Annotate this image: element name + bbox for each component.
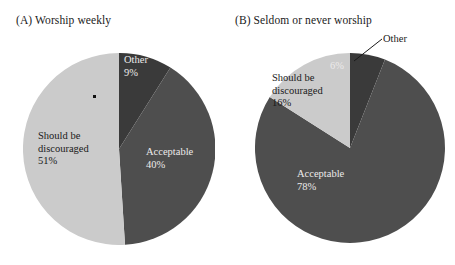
panel-b-label-discouraged-line1: Should be bbox=[272, 72, 314, 83]
panel-a-center-dot bbox=[93, 95, 96, 98]
panel-b-title: (B) Seldom or never worship bbox=[235, 14, 372, 26]
panel-a-label-discouraged-pct: 51% bbox=[38, 155, 89, 168]
panel-b-label-discouraged: Should be discouraged 16% bbox=[272, 72, 323, 110]
panel-a-worship-weekly: (A) Worship weekly bbox=[0, 0, 228, 265]
panel-b-label-discouraged-line2: discouraged bbox=[272, 85, 323, 98]
panel-a-label-other-name: Other bbox=[124, 54, 148, 65]
panel-a-label-discouraged: Should be discouraged 51% bbox=[38, 130, 89, 168]
pie-chart-figure: (A) Worship weekly Other 9% Acceptable 4… bbox=[0, 0, 455, 265]
panel-b-label-acceptable: Acceptable 78% bbox=[297, 168, 344, 193]
panel-b-label-acceptable-pct: 78% bbox=[297, 181, 344, 194]
panel-b-seldom-or-never-worship: (B) Seldom or never worship bbox=[228, 0, 455, 265]
panel-b-label-other-pct: 6% bbox=[330, 60, 344, 73]
panel-a-label-acceptable-pct: 40% bbox=[146, 159, 193, 172]
panel-a-label-other-pct: 9% bbox=[124, 67, 148, 80]
panel-a-label-discouraged-line1: Should be bbox=[38, 130, 80, 141]
panel-a-label-discouraged-line2: discouraged bbox=[38, 143, 89, 156]
panel-a-label-acceptable-name: Acceptable bbox=[146, 146, 193, 157]
panel-b-label-discouraged-pct: 16% bbox=[272, 97, 323, 110]
panel-a-label-other: Other 9% bbox=[124, 54, 148, 79]
panel-a-title: (A) Worship weekly bbox=[16, 14, 111, 26]
panel-b-label-acceptable-name: Acceptable bbox=[297, 168, 344, 179]
panel-a-label-acceptable: Acceptable 40% bbox=[146, 146, 193, 171]
panel-b-label-other-name: Other bbox=[383, 33, 407, 46]
